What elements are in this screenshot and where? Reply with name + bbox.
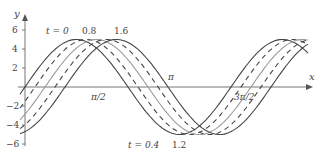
x-axis-label: x xyxy=(309,71,315,82)
x-axis-arrow-icon xyxy=(306,84,313,90)
ytick-6: 6 xyxy=(12,25,18,35)
xtick-pi: π xyxy=(167,72,175,82)
y-axis-arrow-icon xyxy=(22,14,28,21)
y-axis-label: y xyxy=(13,8,20,19)
label-t0: t = 0 xyxy=(46,26,69,36)
ytick-minus-4: −4 xyxy=(6,120,20,130)
label-t16: 1.6 xyxy=(114,26,129,36)
label-t04: t = 0.4 xyxy=(128,140,159,150)
wave-chart: y 6 4 2 −2 −4 −6 π/2 π 3π/2 x t = 0 0.8 … xyxy=(0,0,319,152)
label-t12: 1.2 xyxy=(172,140,186,150)
ytick-minus-2: −2 xyxy=(6,101,19,111)
ytick-minus-6: −6 xyxy=(6,139,20,149)
ytick-4: 4 xyxy=(12,44,18,54)
label-t08: 0.8 xyxy=(82,26,97,36)
xtick-pi-over-2: π/2 xyxy=(90,92,106,102)
ytick-2: 2 xyxy=(12,63,18,73)
